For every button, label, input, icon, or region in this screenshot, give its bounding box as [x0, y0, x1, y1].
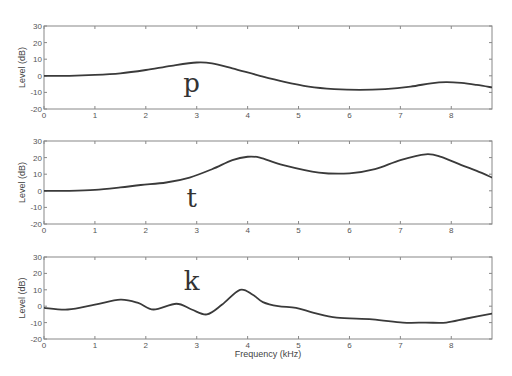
x-tick-label: 7: [398, 111, 403, 120]
x-tick-label: 6: [347, 111, 352, 120]
x-tick-label: 4: [245, 111, 250, 120]
y-tick-label: 20: [33, 154, 42, 163]
y-tick-label: -20: [30, 220, 42, 229]
x-tick-label: 8: [449, 111, 454, 120]
spectra-figure: 012345678-20-100102030Level (dB)p0123456…: [0, 0, 512, 376]
x-tick-label: 0: [42, 111, 47, 120]
y-axis-label: Level (dB): [17, 277, 27, 318]
x-tick-label: 6: [347, 226, 352, 235]
x-tick-label: 1: [93, 226, 98, 235]
panel-k: 012345678-20-100102030Level (dB)k: [17, 253, 492, 350]
y-tick-label: 10: [33, 170, 42, 179]
x-tick-label: 5: [296, 111, 301, 120]
y-tick-label: 20: [33, 39, 42, 48]
x-tick-label: 1: [93, 341, 98, 350]
x-tick-label: 3: [195, 226, 200, 235]
y-tick-label: 0: [38, 72, 43, 81]
panel-p: 012345678-20-100102030Level (dB)p: [17, 22, 492, 120]
panel-t: 012345678-20-100102030Level (dB)t: [17, 137, 492, 235]
x-tick-label: 6: [347, 341, 352, 350]
y-axis-label: Level (dB): [17, 47, 27, 88]
y-axis-label: Level (dB): [17, 162, 27, 203]
x-tick-label: 4: [245, 226, 250, 235]
y-tick-label: 0: [38, 187, 43, 196]
x-tick-label: 7: [398, 226, 403, 235]
x-tick-label: 1: [93, 111, 98, 120]
y-tick-label: 10: [33, 286, 42, 295]
chart-canvas: 012345678-20-100102030Level (dB)p0123456…: [0, 0, 512, 376]
y-tick-label: 30: [33, 137, 42, 146]
y-tick-label: -20: [30, 335, 42, 344]
x-tick-label: 2: [144, 341, 149, 350]
spectrum-line-t: [44, 154, 492, 191]
phoneme-label-k: k: [184, 266, 200, 296]
phoneme-label-t: t: [186, 183, 197, 213]
x-tick-label: 3: [195, 341, 200, 350]
x-tick-label: 0: [42, 341, 47, 350]
x-axis-label: Frequency (kHz): [235, 349, 302, 359]
y-tick-label: -10: [30, 319, 42, 328]
x-tick-label: 8: [449, 341, 454, 350]
y-tick-label: -20: [30, 105, 42, 114]
x-tick-label: 7: [398, 341, 403, 350]
phoneme-label-p: p: [183, 68, 200, 98]
y-tick-label: -10: [30, 88, 42, 97]
axes-frame: [44, 26, 492, 109]
y-tick-label: 20: [33, 269, 42, 278]
y-tick-label: 0: [38, 302, 43, 311]
x-tick-label: 2: [144, 111, 149, 120]
x-tick-label: 3: [195, 111, 200, 120]
spectrum-line-p: [44, 62, 492, 90]
panels: 012345678-20-100102030Level (dB)p0123456…: [17, 22, 492, 350]
y-tick-label: 30: [33, 253, 42, 262]
x-tick-label: 8: [449, 226, 454, 235]
axes-frame: [44, 141, 492, 224]
x-tick-label: 5: [296, 226, 301, 235]
x-tick-label: 2: [144, 226, 149, 235]
axes-frame: [44, 257, 492, 339]
y-tick-label: 10: [33, 55, 42, 64]
x-tick-label: 0: [42, 226, 47, 235]
y-tick-label: 30: [33, 22, 42, 31]
y-tick-label: -10: [30, 203, 42, 212]
spectrum-line-k: [44, 289, 492, 322]
